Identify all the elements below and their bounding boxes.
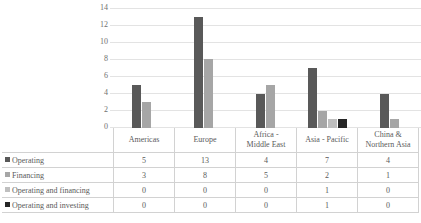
bar: [266, 85, 275, 128]
bar: [380, 94, 389, 128]
category-label-line: Americas: [114, 135, 174, 145]
table-row: Operating and financing00010: [2, 183, 419, 198]
bar: [390, 119, 399, 128]
data-table: AmericasEuropeAfrica -Middle EastAsia - …: [2, 128, 419, 213]
y-tick-label: 12: [86, 21, 108, 29]
table-cell: 0: [175, 198, 236, 213]
bar: [204, 59, 213, 128]
bar: [318, 111, 327, 128]
legend-entry: Operating and investing: [2, 198, 114, 213]
table-cell: 13: [175, 153, 236, 168]
category-label-line: Middle East: [236, 140, 296, 150]
bar: [328, 119, 337, 128]
y-axis: 14 12 10 8 6 4 2 0: [84, 8, 108, 128]
category-label-line: Africa -: [236, 130, 296, 140]
bar-chart-with-data-table: 14 12 10 8 6 4 2 0 AmericasEuropeAfrica …: [0, 0, 421, 223]
table-cell: 0: [358, 183, 419, 198]
table-cell: 0: [175, 183, 236, 198]
category-header-cell: Africa -Middle East: [236, 128, 297, 153]
category-header-cell: China &Northern Asia: [358, 128, 419, 153]
table-cell: 1: [297, 198, 358, 213]
table-cell: 0: [114, 198, 175, 213]
category-label-line: China &: [358, 130, 418, 140]
bar-group: [359, 8, 421, 128]
table-cell: 2: [297, 168, 358, 183]
legend-entry: Operating and financing: [2, 183, 114, 198]
category-label-line: Asia - Pacific: [297, 135, 357, 145]
table-cell: 7: [297, 153, 358, 168]
table-cell: 3: [114, 168, 175, 183]
legend-label: Operating: [12, 156, 44, 165]
table-cell: 4: [236, 153, 297, 168]
table-cell: 5: [114, 153, 175, 168]
table-row: Financing38521: [2, 168, 419, 183]
y-tick-label: 8: [86, 55, 108, 63]
legend-swatch-icon: [5, 172, 10, 177]
table-cell: 0: [236, 198, 297, 213]
bar: [256, 94, 265, 128]
y-tick-label: 6: [86, 72, 108, 80]
bar-group: [172, 8, 234, 128]
legend-swatch-icon: [5, 157, 10, 162]
table-cell: 0: [114, 183, 175, 198]
bar: [132, 85, 141, 128]
table-cell: 8: [175, 168, 236, 183]
legend-label: Operating and financing: [12, 186, 90, 195]
category-header-cell: Americas: [114, 128, 175, 153]
bar: [338, 119, 347, 128]
bar-group: [110, 8, 172, 128]
y-tick-label: 14: [86, 4, 108, 12]
y-tick-label: 10: [86, 38, 108, 46]
table-header-row: AmericasEuropeAfrica -Middle EastAsia - …: [2, 128, 419, 153]
table-cell: 0: [358, 198, 419, 213]
legend-swatch-icon: [5, 187, 10, 192]
legend-label: Operating and investing: [12, 201, 89, 210]
legend-entry: Financing: [2, 168, 114, 183]
bar-group: [297, 8, 359, 128]
table-cell: 0: [236, 183, 297, 198]
table-cell: 4: [358, 153, 419, 168]
table-corner-cell: [2, 128, 114, 153]
category-header-cell: Asia - Pacific: [297, 128, 358, 153]
legend-label: Financing: [12, 171, 44, 180]
table-row: Operating513474: [2, 153, 419, 168]
category-header-cell: Europe: [175, 128, 236, 153]
bar: [142, 102, 151, 128]
category-label-line: Europe: [175, 135, 235, 145]
y-tick-label: 4: [86, 89, 108, 97]
table-cell: 1: [358, 168, 419, 183]
table-cell: 1: [297, 183, 358, 198]
y-tick-label: 2: [86, 106, 108, 114]
table-row: Operating and investing00010: [2, 198, 419, 213]
table-cell: 5: [236, 168, 297, 183]
plot-area: [110, 8, 421, 128]
bar-group: [234, 8, 296, 128]
bar: [194, 17, 203, 128]
legend-swatch-icon: [5, 202, 10, 207]
legend-entry: Operating: [2, 153, 114, 168]
bar: [308, 68, 317, 128]
category-label-line: Northern Asia: [358, 140, 418, 150]
